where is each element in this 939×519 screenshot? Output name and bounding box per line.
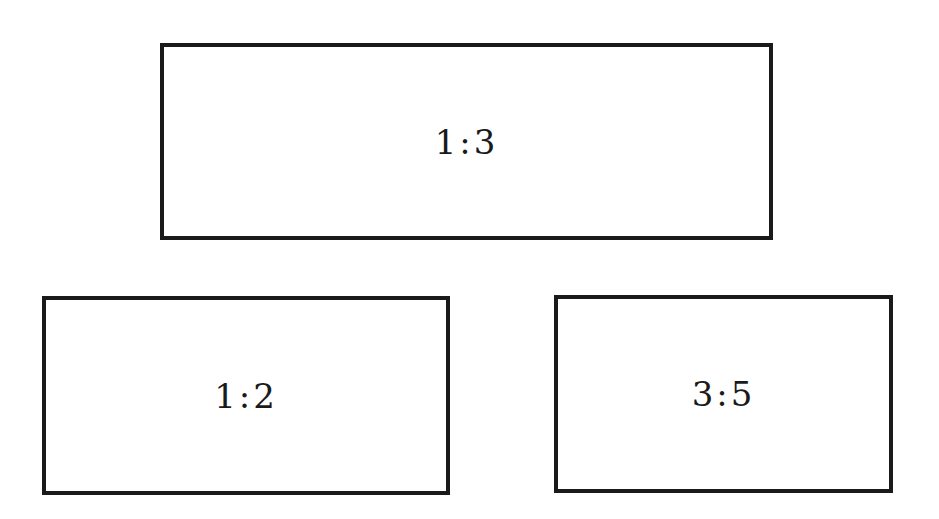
rectangle-ratio-3-5: 3:5 xyxy=(554,295,893,493)
rectangle-ratio-1-3: 1:3 xyxy=(160,43,773,240)
ratio-label-3-5: 3:5 xyxy=(692,374,756,414)
ratio-label-1-3: 1:3 xyxy=(435,122,499,162)
rectangle-ratio-1-2: 1:2 xyxy=(42,296,450,495)
ratio-label-1-2: 1:2 xyxy=(214,376,278,416)
